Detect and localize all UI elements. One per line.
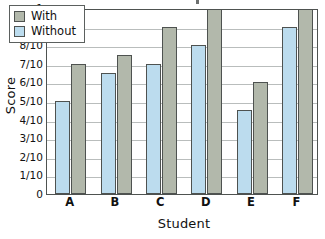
- legend: With Without: [9, 5, 85, 43]
- y-axis-tick-label: 0: [36, 189, 43, 200]
- bar-without: [55, 101, 70, 194]
- x-axis-title: Student: [45, 216, 323, 231]
- bar-without: [237, 110, 252, 194]
- x-axis-tick-label: D: [201, 197, 211, 209]
- x-axis-tick-label: E: [247, 197, 255, 209]
- y-axis-tick-label: 6/10: [19, 77, 43, 88]
- legend-item-with: With: [14, 9, 76, 24]
- bar-without: [191, 45, 206, 194]
- y-axis-tick-label: 2/10: [19, 152, 43, 163]
- bar-with: [298, 9, 313, 194]
- bar-chart: Score 01/102/103/104/105/106/107/108/109…: [0, 0, 325, 239]
- legend-swatch-with-icon: [14, 11, 25, 22]
- bar-without: [282, 27, 297, 194]
- y-axis-tick-label: 5/10: [19, 96, 43, 107]
- legend-label-without: Without: [31, 26, 76, 38]
- bar-with: [207, 9, 222, 194]
- bar-with: [71, 64, 86, 194]
- bar-without: [146, 64, 161, 194]
- bar-with: [117, 55, 132, 195]
- legend-swatch-without-icon: [14, 26, 25, 37]
- legend-label-with: With: [31, 11, 57, 23]
- x-axis-tick-label: A: [65, 197, 74, 209]
- plot-area: [46, 9, 318, 195]
- x-axis-tick-labels: ABCDEF: [46, 197, 318, 213]
- x-axis-tick-label: F: [292, 197, 300, 209]
- y-axis-tick-label: 1/10: [19, 170, 43, 181]
- bar-without: [101, 73, 116, 194]
- y-axis-tick-label: 3/10: [19, 133, 43, 144]
- bar-with: [162, 27, 177, 194]
- legend-item-without: Without: [14, 24, 76, 39]
- bar-with: [253, 82, 268, 194]
- clipped-title-mark: [196, 0, 199, 4]
- x-axis-tick-label: B: [111, 197, 120, 209]
- y-axis-tick-label: 7/10: [19, 59, 43, 70]
- bars-layer: [47, 10, 317, 194]
- y-axis-tick-label: 4/10: [19, 114, 43, 125]
- x-axis-tick-label: C: [156, 197, 164, 209]
